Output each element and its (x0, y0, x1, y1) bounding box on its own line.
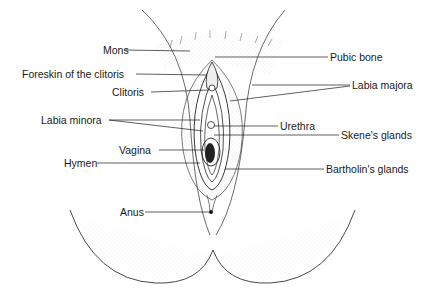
label-pubic-bone: Pubic bone (330, 51, 383, 63)
urethra-shape (208, 122, 215, 129)
clitoris-shape (209, 85, 215, 91)
label-labia-minora: Labia minora (41, 114, 102, 126)
label-urethra: Urethra (280, 120, 315, 132)
label-vagina: Vagina (119, 144, 151, 156)
label-skenes-glands: Skene's glands (341, 129, 412, 141)
vulva-illustration (0, 0, 437, 295)
label-clitoris: Clitoris (112, 86, 144, 98)
label-bartholins-glands: Bartholin's glands (326, 163, 409, 175)
label-hymen: Hymen (64, 157, 97, 169)
label-foreskin-of-clitoris: Foreskin of the clitoris (22, 68, 124, 80)
vagina-opening (205, 143, 215, 163)
label-mons: Mons (103, 44, 129, 56)
anatomy-diagram: Mons Foreskin of the clitoris Clitoris L… (0, 0, 437, 295)
label-anus: Anus (120, 206, 144, 218)
label-labia-majora: Labia majora (352, 79, 413, 91)
